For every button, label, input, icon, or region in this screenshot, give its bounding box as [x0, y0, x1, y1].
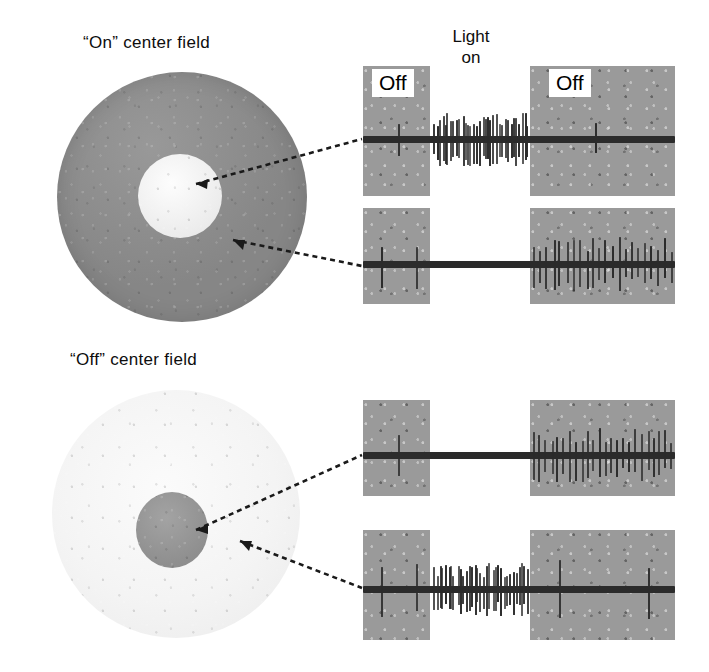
spike [467, 125, 469, 165]
stimulus-off-panel-right [530, 530, 675, 640]
stimulus-off-panel-right [530, 400, 675, 496]
stimulus-off-panel-left [363, 208, 430, 304]
on-center-field-center-spot [138, 154, 222, 238]
spike [479, 121, 481, 166]
spike [497, 565, 499, 602]
spike [469, 126, 471, 166]
off-center-field-label: “Off” center field [70, 350, 197, 370]
trace-baseline [363, 136, 675, 143]
light-on-line2: on [433, 47, 509, 68]
trace-baseline [363, 261, 675, 268]
spike [445, 125, 447, 164]
spike [476, 126, 478, 165]
spike [513, 572, 515, 615]
stimulus-off-panel-left [363, 400, 430, 496]
trace-baseline [363, 452, 675, 459]
light-on-annotation: Light on [433, 26, 509, 68]
stimulus-off-panel-left [363, 530, 430, 640]
trace-block-off-center-center [363, 400, 675, 496]
off-label-left: Off [372, 69, 414, 97]
spike [445, 565, 447, 604]
receptive-field-figure: “On” center field “Off” center field Lig… [0, 0, 709, 672]
spike [437, 576, 439, 610]
light-on-line1: Light [453, 27, 490, 46]
trace-block-off-center-surround [363, 530, 675, 640]
spike [473, 124, 475, 164]
on-center-field-label: “On” center field [83, 33, 210, 53]
stimulus-off-panel-right [530, 208, 675, 304]
trace-block-on-center-surround [363, 208, 675, 304]
trace-block-on-center-center: Off Off [363, 66, 675, 196]
spike [504, 577, 506, 610]
off-center-field-center-spot [136, 492, 208, 568]
trace-baseline [363, 586, 675, 593]
off-label-right: Off [549, 69, 591, 97]
